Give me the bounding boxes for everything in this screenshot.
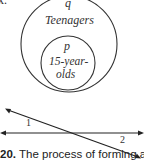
outer-set-label: Teenagers (45, 13, 94, 28)
outer-set-letter: q (65, 0, 71, 11)
question-caption: 20. The process of forming a (0, 148, 144, 160)
figure-canvas: x. q Teenagers p 15-year- olds 1 2 20. T… (0, 0, 144, 164)
inner-set-letter: p (64, 39, 70, 54)
question-text: The process of forming a (16, 148, 144, 160)
arrowhead-upper-left-icon (5, 109, 11, 114)
top-fragment-text: x. (0, 0, 7, 8)
angle-2-label: 2 (120, 134, 125, 145)
angle-1-label: 1 (26, 117, 31, 128)
inner-set-label-line1: 15-year- (49, 55, 88, 67)
arrowhead-right-icon (138, 131, 144, 136)
question-number: 20. (0, 148, 16, 160)
inner-set-label-line2: olds (56, 68, 75, 80)
arrowhead-left-icon (0, 131, 6, 136)
